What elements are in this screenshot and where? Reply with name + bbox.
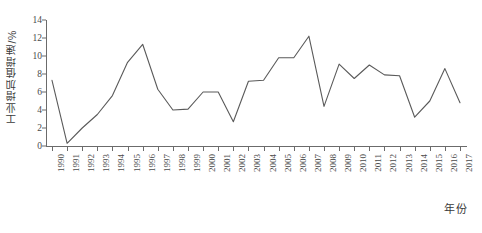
x-tick-label: 2001 (222, 154, 232, 172)
x-tick-label: 1994 (116, 154, 126, 172)
x-tick-label: 1995 (132, 154, 142, 172)
x-tick-label: 2014 (419, 154, 429, 172)
x-tick-mark (400, 147, 401, 151)
x-tick-label: 2006 (298, 154, 308, 172)
x-tick-label: 2016 (449, 154, 459, 172)
x-tick-mark (339, 147, 340, 151)
x-tick-mark (158, 147, 159, 151)
x-tick-label: 2002 (237, 154, 247, 172)
x-tick-mark (82, 147, 83, 151)
x-tick-label: 1999 (192, 154, 202, 172)
x-tick-label: 2003 (252, 154, 262, 172)
x-tick-label: 1992 (86, 154, 96, 172)
chart-figure: 工业增加值增速/% 02468101214 199019911992199319… (0, 0, 482, 233)
x-tick-label: 2010 (358, 154, 368, 172)
x-tick-mark (445, 147, 446, 151)
x-tick-label: 1991 (71, 154, 81, 172)
x-tick-mark (128, 147, 129, 151)
x-tick-mark (415, 147, 416, 151)
x-tick-label: 1997 (162, 154, 172, 172)
x-tick-mark (369, 147, 370, 151)
x-tick-label: 2011 (373, 154, 383, 172)
line-series-industrial-growth (46, 20, 466, 146)
x-tick-mark (294, 147, 295, 151)
x-tick-mark (354, 147, 355, 151)
x-tick-mark (279, 147, 280, 151)
x-tick-label: 2004 (268, 154, 278, 172)
x-tick-mark (309, 147, 310, 151)
x-tick-mark (97, 147, 98, 151)
x-tick-mark (218, 147, 219, 151)
x-tick-mark (143, 147, 144, 151)
x-tick-label: 2012 (388, 154, 398, 172)
x-tick-label: 2017 (464, 154, 474, 172)
x-tick-label: 2009 (343, 154, 353, 172)
x-tick-label: 2007 (313, 154, 323, 172)
x-tick-label: 2005 (283, 154, 293, 172)
x-tick-mark (264, 147, 265, 151)
x-tick-mark (203, 147, 204, 151)
x-tick-mark (430, 147, 431, 151)
x-tick-mark (112, 147, 113, 151)
x-tick-mark (173, 147, 174, 151)
x-axis-ticks: 1990199119921993199419951996199719981999… (46, 147, 467, 207)
x-tick-mark (384, 147, 385, 151)
x-tick-label: 1993 (101, 154, 111, 172)
x-tick-label: 1990 (56, 154, 66, 172)
y-axis-title: 工业增加值增速/% (2, 12, 20, 142)
plot-area: 02468101214 (46, 20, 466, 146)
x-tick-mark (248, 147, 249, 151)
x-tick-mark (52, 147, 53, 151)
x-tick-mark (460, 147, 461, 151)
x-tick-label: 1996 (147, 154, 157, 172)
x-tick-label: 2000 (207, 154, 217, 172)
x-axis-title: 年份 (444, 200, 468, 216)
x-tick-label: 2015 (434, 154, 444, 172)
x-tick-label: 1998 (177, 154, 187, 172)
x-tick-mark (188, 147, 189, 151)
x-tick-label: 2008 (328, 154, 338, 172)
x-tick-label: 2013 (404, 154, 414, 172)
x-tick-mark (233, 147, 234, 151)
x-tick-mark (67, 147, 68, 151)
x-tick-mark (324, 147, 325, 151)
